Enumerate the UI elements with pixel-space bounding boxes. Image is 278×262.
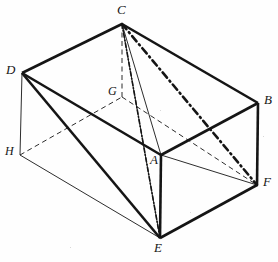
cevian-CF xyxy=(122,24,257,185)
edge-HG xyxy=(20,97,122,155)
paper-speck xyxy=(190,212,191,213)
vertex-label-D: D xyxy=(6,63,15,76)
paper-speck xyxy=(70,247,71,248)
vertex-label-E: E xyxy=(154,241,162,254)
vertex-label-C: C xyxy=(117,3,126,16)
edge-DC xyxy=(22,24,122,73)
edge-layer xyxy=(20,24,258,238)
edge-DE xyxy=(22,73,160,238)
edge-AE xyxy=(160,155,161,238)
geometry-svg xyxy=(0,0,278,262)
edge-HE xyxy=(20,155,160,238)
edge-DH xyxy=(20,73,22,155)
paper-speck xyxy=(263,136,264,137)
edge-EF xyxy=(160,185,257,238)
vertex-label-A: A xyxy=(150,153,158,166)
vertex-label-F: F xyxy=(263,175,271,188)
vertex-label-H: H xyxy=(5,145,14,157)
paper-speck xyxy=(160,110,161,111)
edge-AF xyxy=(161,155,257,185)
edge-BF xyxy=(257,103,258,185)
vertex-label-G: G xyxy=(108,85,117,97)
vertex-label-B: B xyxy=(264,93,272,106)
geometry-diagram: CDBGHAFE xyxy=(0,0,278,262)
